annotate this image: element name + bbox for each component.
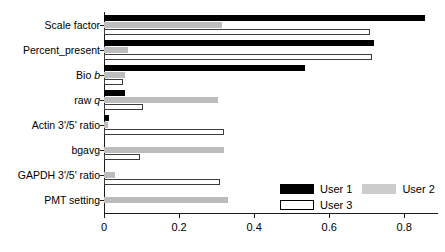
bar-user-2 — [104, 22, 222, 28]
category-group: Scale factor — [104, 12, 438, 37]
category-label: Scale factor — [45, 19, 100, 30]
bar-user-3 — [104, 79, 123, 85]
bar-user-1 — [104, 90, 125, 96]
x-axis-tick-label: 0 — [101, 221, 107, 233]
bar-user-2 — [104, 47, 128, 53]
bar-user-3 — [104, 154, 140, 160]
category-label: Actin 3'/5' ratio — [32, 120, 100, 131]
x-axis-tick — [179, 213, 180, 218]
bar-chart: Scale factorPercent_presentBio braw qAct… — [0, 0, 445, 252]
bar-user-2 — [104, 172, 115, 178]
category-group: bgavg — [104, 138, 438, 163]
x-axis-tick — [254, 213, 255, 218]
category-group: Actin 3'/5' ratio — [104, 113, 438, 138]
legend-label-user-2: User 2 — [402, 184, 434, 195]
legend-swatch-user-1 — [280, 184, 314, 194]
bar-user-1 — [104, 115, 109, 121]
bar-user-3 — [104, 29, 370, 35]
category-label: GAPDH 3'/5' ratio — [18, 170, 100, 181]
category-label: PMT setting — [44, 195, 100, 206]
legend-swatch-user-3 — [280, 200, 314, 210]
bar-user-2 — [104, 122, 108, 128]
legend-swatch-user-2 — [362, 184, 396, 194]
bar-user-1 — [104, 65, 305, 71]
x-axis-tick-label: 0.4 — [246, 221, 261, 233]
bar-user-2 — [104, 147, 224, 153]
category-group: Percent_present — [104, 37, 438, 62]
x-axis-tick-label: 0.8 — [397, 221, 412, 233]
category-group: raw q — [104, 87, 438, 112]
x-axis-tick — [104, 213, 105, 218]
bar-user-2 — [104, 97, 218, 103]
category-group: Bio b — [104, 62, 438, 87]
bar-user-3 — [104, 54, 372, 60]
x-axis-tick-label: 0.2 — [171, 221, 186, 233]
bar-user-3 — [104, 129, 224, 135]
category-label: Percent_present — [23, 44, 100, 55]
bar-user-2 — [104, 197, 228, 203]
category-label: bgavg — [71, 145, 100, 156]
bar-user-3 — [104, 179, 220, 185]
bar-user-3 — [104, 104, 143, 110]
legend-row-2: User 3 — [280, 198, 445, 212]
legend-row-1: User 1 User 2 — [280, 182, 445, 196]
bar-user-1 — [104, 15, 425, 21]
category-label: Bio b — [76, 70, 100, 81]
chart-legend: User 1 User 2 User 3 — [280, 182, 445, 214]
category-label: raw q — [74, 95, 100, 106]
legend-entry-user-2: User 2 — [362, 184, 434, 195]
legend-label-user-1: User 1 — [320, 184, 352, 195]
legend-entry-user-1: User 1 — [280, 184, 352, 195]
legend-entry-user-3: User 3 — [280, 200, 352, 211]
bar-user-2 — [104, 72, 125, 78]
x-axis-tick-label: 0.6 — [322, 221, 337, 233]
legend-label-user-3: User 3 — [320, 200, 352, 211]
bar-user-1 — [104, 40, 374, 46]
